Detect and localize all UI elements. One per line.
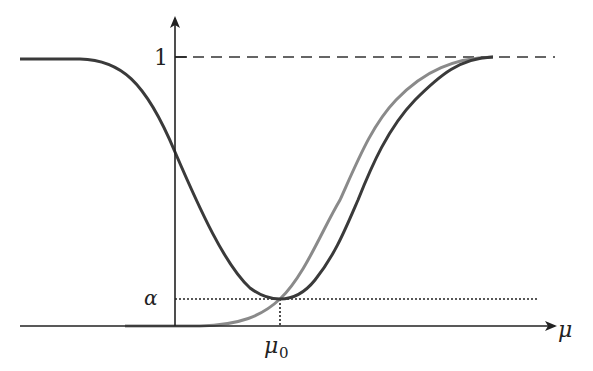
mu0-subscript: 0 <box>279 344 289 362</box>
two-sided-power-curve <box>20 57 493 299</box>
y-tick-label-one: 1 <box>154 45 168 70</box>
power-function-diagram: 1 α μ μ 0 <box>0 0 593 371</box>
x-axis-label: μ <box>558 317 572 342</box>
mu0-label: μ <box>264 333 278 358</box>
alpha-label: α <box>144 286 158 310</box>
